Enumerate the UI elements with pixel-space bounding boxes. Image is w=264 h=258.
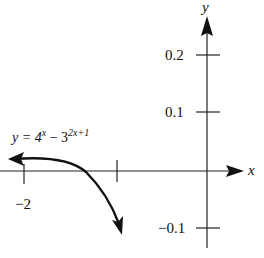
annotation-exp2: 2x+1 [68, 127, 89, 138]
x-tick-label-neg2: −2 [15, 197, 31, 212]
y-axis-arrow-icon [201, 16, 213, 36]
x-axis-label: x [248, 163, 255, 178]
y-tick-label-0.1: 0.1 [165, 105, 184, 120]
annotation-lhs: y = 4 [12, 130, 42, 145]
y-tick-label-neg0.1: −0.1 [158, 221, 185, 236]
function-annotation: y = 4x − 32x+1 [12, 128, 89, 145]
function-curve [14, 158, 119, 224]
annotation-mid: − 3 [46, 130, 68, 145]
y-tick-label-0.2: 0.2 [165, 48, 184, 63]
y-axis-label: y [202, 0, 209, 15]
function-graph: y x 0.2 0.1 −0.1 −2 y = 4x − 32x+1 [0, 0, 264, 258]
